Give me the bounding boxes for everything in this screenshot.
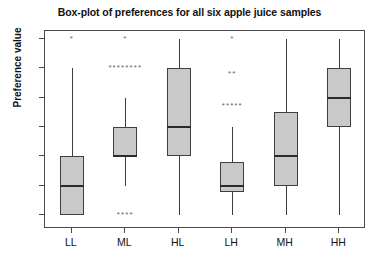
outlier-marker-row: * — [123, 35, 127, 43]
outlier-marker-row: * — [70, 35, 74, 43]
whisker-lower — [286, 186, 287, 215]
x-axis-tick-mark — [285, 228, 286, 233]
median-line — [113, 155, 137, 157]
box-mh — [274, 112, 298, 185]
x-axis-tick-label-hl: HL — [158, 236, 198, 248]
outlier-marker-row: ******** — [108, 64, 142, 72]
outlier-marker-row: ** — [228, 70, 236, 78]
whisker-lower — [339, 127, 340, 215]
median-line — [327, 97, 351, 99]
outlier-marker-row: **** — [117, 211, 134, 219]
whisker-lower — [125, 156, 126, 185]
whisker-upper — [286, 39, 287, 112]
x-axis-tick-label-hh: HH — [318, 236, 358, 248]
whisker-upper — [125, 98, 126, 127]
outlier-marker-row: ***** — [222, 102, 243, 110]
box-lh — [220, 162, 244, 191]
plot-area: ********************** — [44, 30, 365, 228]
y-axis-title: Preference value — [12, 8, 23, 128]
whisker-upper — [72, 68, 73, 156]
x-axis-tick-label-ll: LL — [51, 236, 91, 248]
x-axis-tick-mark — [338, 228, 339, 233]
median-line — [274, 155, 298, 157]
x-axis-tick-mark — [231, 228, 232, 233]
median-line — [167, 126, 191, 128]
outlier-marker-row: * — [230, 35, 234, 43]
whisker-upper — [179, 39, 180, 68]
x-axis-tick-label-lh: LH — [211, 236, 251, 248]
median-line — [60, 185, 84, 187]
whisker-lower — [179, 156, 180, 215]
whisker-upper — [232, 127, 233, 162]
x-axis-tick-mark — [124, 228, 125, 233]
x-axis-tick-mark — [71, 228, 72, 233]
x-axis-tick-label-mh: MH — [265, 236, 305, 248]
x-axis-tick-label-ml: ML — [104, 236, 144, 248]
boxplot-chart: Box-plot of preferences for all six appl… — [0, 0, 379, 259]
median-line — [220, 185, 244, 187]
box-hl — [167, 68, 191, 156]
x-axis-tick-mark — [178, 228, 179, 233]
whisker-upper — [339, 39, 340, 68]
box-ml — [113, 127, 137, 156]
whisker-lower — [232, 192, 233, 215]
chart-title: Box-plot of preferences for all six appl… — [0, 6, 379, 18]
